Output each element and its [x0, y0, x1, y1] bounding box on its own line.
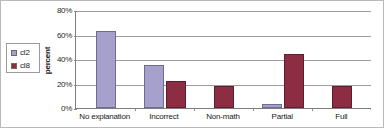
plot-area: [75, 11, 371, 109]
y-axis-tick-label: 40%: [57, 56, 72, 64]
x-axis-tick-label: No explanation: [75, 112, 134, 121]
bar-group: [194, 11, 253, 108]
bar-group: [312, 11, 371, 108]
y-axis-title-text: percent: [44, 46, 53, 74]
legend-item-cl8: cl8: [11, 60, 39, 71]
bar-group: [135, 11, 194, 108]
legend-swatch-cl8-icon: [11, 63, 17, 69]
x-axis-tick-mark: [312, 108, 313, 111]
y-axis-tick-label: 80%: [57, 7, 72, 15]
x-axis-tick-label: Full: [312, 112, 371, 121]
y-axis-tick-mark: [74, 36, 77, 37]
y-axis-tick-labels: 0%20%40%60%80%: [53, 1, 74, 128]
bar-groups: [76, 11, 371, 108]
legend-item-cl2: cl2: [11, 47, 39, 58]
bar-cl8: [166, 81, 186, 108]
legend-label-cl8: cl8: [20, 61, 30, 70]
y-axis-tick-label: 0%: [61, 105, 72, 113]
bar-group: [76, 11, 135, 108]
bar-cl8: [284, 54, 304, 108]
bar-cl8: [332, 86, 352, 108]
x-axis-tick-labels: No explanationIncorrectNon-mathPartialFu…: [75, 112, 371, 121]
y-axis-tick-mark: [74, 85, 77, 86]
x-axis-tick-mark: [194, 108, 195, 111]
bar-chart: cl2 cl8 percent 0%20%40%60%80% No explan…: [0, 0, 384, 128]
y-axis-tick-mark: [74, 60, 77, 61]
x-axis-tick-label: Incorrect: [134, 112, 193, 121]
y-axis-tick-mark: [74, 109, 77, 110]
x-axis-tick-label: Non-math: [193, 112, 252, 121]
y-axis-tick-label: 60%: [57, 32, 72, 40]
legend-label-cl2: cl2: [20, 48, 30, 57]
legend-swatch-cl2-icon: [11, 50, 17, 56]
bar-cl2: [96, 31, 116, 108]
y-axis-tick-label: 20%: [57, 81, 72, 89]
bar-group: [253, 11, 312, 108]
y-axis-tick-mark: [74, 11, 77, 12]
x-axis-tick-mark: [253, 108, 254, 111]
bar-cl2: [144, 65, 164, 108]
bar-cl8: [214, 86, 234, 108]
chart-legend: cl2 cl8: [6, 43, 40, 73]
bar-cl2: [262, 104, 282, 108]
x-axis-tick-mark: [135, 108, 136, 111]
x-axis-tick-label: Partial: [253, 112, 312, 121]
